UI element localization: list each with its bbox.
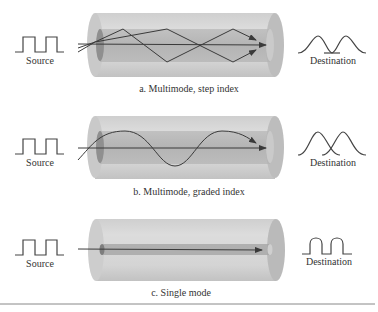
panel-a-multimode-step-index: Source Destination a. Multimode, step in… bbox=[15, 13, 366, 94]
caption-b: b. Multimode, graded index bbox=[133, 186, 244, 197]
destination-signal-c bbox=[302, 238, 352, 254]
source-signal-c bbox=[15, 240, 64, 255]
destination-label-b: Destination bbox=[310, 157, 356, 168]
source-label-a: Source bbox=[26, 55, 54, 66]
destination-label-c: Destination bbox=[306, 256, 352, 267]
fiber-modes-diagram: Source Destination a. Multimode, step in… bbox=[0, 0, 378, 312]
destination-signal-b bbox=[298, 132, 366, 155]
panel-c-single-mode: Source Destination c. Single mode bbox=[15, 219, 352, 298]
source-label-c: Source bbox=[26, 258, 54, 269]
panel-b-multimode-graded-index: Source Destination b. Multimode, graded … bbox=[15, 116, 366, 197]
source-label-b: Source bbox=[26, 157, 54, 168]
caption-c: c. Single mode bbox=[151, 287, 211, 298]
source-signal-b bbox=[15, 139, 64, 154]
source-signal-a bbox=[15, 37, 64, 52]
destination-signal-a bbox=[298, 36, 366, 53]
caption-a: a. Multimode, step index bbox=[139, 83, 239, 94]
destination-label-a: Destination bbox=[310, 55, 356, 66]
